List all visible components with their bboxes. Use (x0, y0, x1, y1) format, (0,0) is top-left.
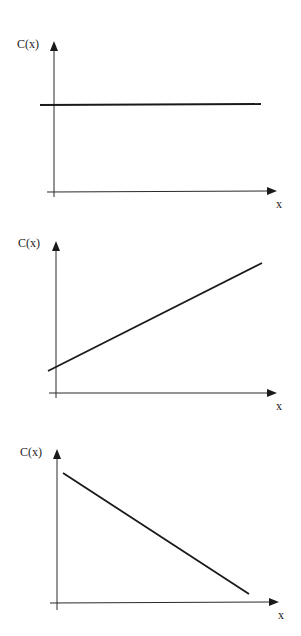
x-axis-arrow-icon (269, 598, 279, 606)
y-axis-label: C(x) (20, 446, 42, 458)
cost-line-decreasing (63, 473, 249, 594)
y-axis-arrow-icon (53, 449, 61, 459)
chart-decreasing-cost: C(x) x (0, 0, 301, 636)
x-axis (50, 602, 270, 603)
chart-decreasing-cost-plot (0, 0, 301, 636)
x-axis-label: x (278, 609, 284, 621)
